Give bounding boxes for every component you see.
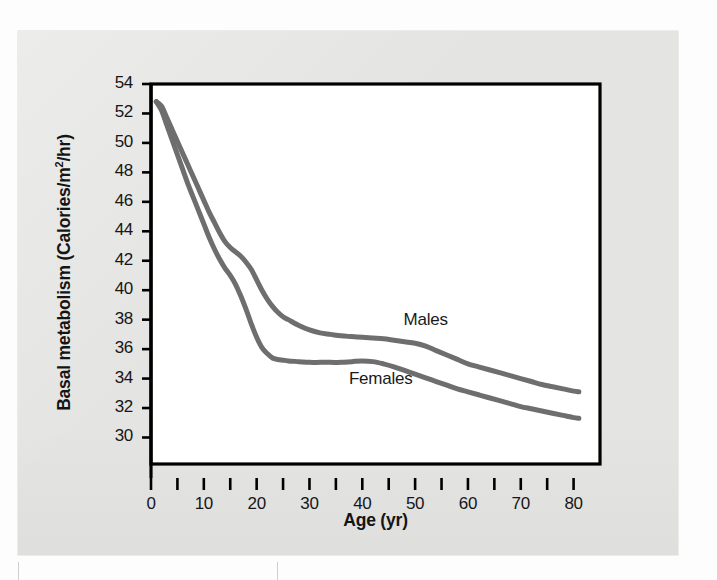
y-tick-label: 48 [99,161,133,181]
series-label-females: Females [349,369,413,389]
y-tick-label: 30 [99,426,133,446]
y-tick-label: 34 [99,368,133,388]
y-tick-label: 40 [99,279,133,299]
y-tick-label: 44 [99,220,133,240]
y-tick-label: 38 [99,309,133,329]
y-tick-label: 52 [99,102,133,122]
y-tick-label: 32 [99,397,133,417]
caption-divider-2 [277,562,278,580]
page-background: 30323436384042444648505254 0102030405060… [0,0,717,580]
y-tick-label: 36 [99,338,133,358]
y-tick-label: 54 [99,73,133,93]
y-axis-title: Basal metabolism (Calories/m2/hr) [54,93,75,453]
x-axis-title: Age (yr) [151,510,600,531]
series-label-males: Males [403,310,447,330]
y-tick-label: 50 [99,132,133,152]
caption-divider [18,562,19,580]
caption-strip [18,562,678,580]
y-tick-label: 46 [99,191,133,211]
y-tick-label: 42 [99,250,133,270]
x-axis-ticks [151,478,600,490]
chart-area: 30323436384042444648505254 0102030405060… [0,0,717,580]
